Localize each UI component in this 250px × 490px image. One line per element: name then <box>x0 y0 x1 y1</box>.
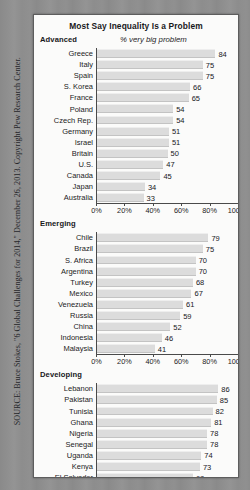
bar-track: 68 <box>96 472 238 478</box>
bar-value-label: 85 <box>217 395 228 404</box>
bar-row-label: Russia <box>34 311 96 320</box>
bar-track: 54 <box>96 103 238 114</box>
bar-value-label: 33 <box>144 193 155 202</box>
bar-row: Poland54 <box>34 103 238 114</box>
bar-value-label: 78 <box>207 440 218 449</box>
bar <box>97 418 211 427</box>
bar-row: China52 <box>34 321 238 332</box>
bar-row: France65 <box>34 92 238 103</box>
bar-value-label: 75 <box>203 60 214 69</box>
bar-value-label: 34 <box>145 182 156 191</box>
bar-value-label: 86 <box>218 384 229 393</box>
bar-row-label: Senegal <box>34 440 96 449</box>
bar-track: 46 <box>96 332 238 343</box>
bar-track: 51 <box>96 126 238 137</box>
bar-value-label: 59 <box>180 311 191 320</box>
bar-row-label: Argentina <box>34 267 96 276</box>
bar-value-label: 46 <box>162 333 173 342</box>
bar-row-label: Brazil <box>34 244 96 253</box>
bar-row: S. Korea66 <box>34 81 238 92</box>
bar-value-label: 66 <box>190 82 201 91</box>
bar-track: 85 <box>96 394 238 405</box>
bar-track: 78 <box>96 428 238 439</box>
x-axis-tick-label: 40% <box>145 206 160 215</box>
bar-row-label: S. Africa <box>34 256 96 265</box>
bar-track: 33 <box>96 192 238 203</box>
bar <box>97 193 144 202</box>
bar-track: 50 <box>96 148 238 159</box>
bar-value-label: 78 <box>207 429 218 438</box>
group-label-emerging: Emerging <box>40 219 76 228</box>
bar <box>97 429 207 438</box>
source-credit-text: SOURCE: Bruce Stokes, "6 Global Challeng… <box>13 33 24 425</box>
bar-row-label: China <box>34 322 96 331</box>
x-axis-emerging: 0%20%40%60%80%100% <box>96 354 238 366</box>
x-axis-line <box>96 354 238 355</box>
chart-title: Most Say Inequality Is a Problem <box>34 21 238 31</box>
bar-track: 70 <box>96 255 238 266</box>
bar-row-label: Venezuela <box>34 300 96 309</box>
bar-row-label: Pakistan <box>34 395 96 404</box>
bar-track: 52 <box>96 321 238 332</box>
x-axis-tick-label: 20% <box>117 206 132 215</box>
bar-track: 75 <box>96 70 238 81</box>
bar-row: Ghana81 <box>34 417 238 428</box>
bar-value-label: 65 <box>189 93 200 102</box>
x-axis-tick-label: 80% <box>202 206 217 215</box>
x-axis-tick-label: 40% <box>145 357 160 366</box>
bar-row: Argentina70 <box>34 266 238 277</box>
bar-track: 41 <box>96 343 238 354</box>
group-label-advanced: Advanced <box>40 35 77 44</box>
bar-row-label: U.S. <box>34 160 96 169</box>
bar-value-label: 74 <box>201 451 212 460</box>
x-axis-tick-label: 0% <box>91 206 102 215</box>
x-axis-tick-label: 100% <box>228 206 239 215</box>
bar-row-label: Australia <box>34 193 96 202</box>
x-axis-tick-label: 0% <box>91 357 102 366</box>
bar-row: Tunisia82 <box>34 406 238 417</box>
bar-row-label: Spain <box>34 71 96 80</box>
bar-value-label: 82 <box>213 407 224 416</box>
bar-rows-advanced: Greece84Italy75Spain75S. Korea66France65… <box>34 48 238 203</box>
x-axis-line <box>96 203 238 204</box>
bar-row-label: Turkey <box>34 278 96 287</box>
bar <box>97 60 203 69</box>
bar-row-label: El Salvador <box>34 473 96 478</box>
bar <box>97 138 169 147</box>
bar-track: 66 <box>96 81 238 92</box>
bar-row-label: Israel <box>34 138 96 147</box>
bar-value-label: 79 <box>208 233 219 242</box>
bar-rows-emerging: Chile79Brazil75S. Africa70Argentina70Tur… <box>34 232 238 354</box>
bar-row: S. Africa70 <box>34 255 238 266</box>
bar-row: Italy75 <box>34 59 238 70</box>
x-axis-tick-label: 60% <box>174 357 189 366</box>
bar-row: Britain50 <box>34 148 238 159</box>
bar-value-label: 70 <box>196 256 207 265</box>
bar <box>97 267 196 276</box>
bar-track: 79 <box>96 232 238 243</box>
advanced-group-header: Advanced % very big problem <box>34 35 238 48</box>
bar-track: 86 <box>96 383 238 394</box>
bar-value-label: 41 <box>155 344 166 353</box>
bar-track: 67 <box>96 288 238 299</box>
bar-row-label: France <box>34 93 96 102</box>
bar <box>97 440 207 449</box>
bar <box>97 93 189 102</box>
bar-row-label: Tunisia <box>34 407 96 416</box>
group-label-developing: Developing <box>40 370 82 379</box>
bar-row: Japan34 <box>34 181 238 192</box>
bar-value-label: 81 <box>211 418 222 427</box>
bar-row-label: Malaysia <box>34 344 96 353</box>
bar <box>97 384 218 393</box>
bar-value-label: 68 <box>193 473 204 478</box>
bar-row: Australia33 <box>34 192 238 203</box>
bar-track: 65 <box>96 92 238 103</box>
x-axis-advanced: 0%20%40%60%80%100% <box>96 203 238 215</box>
bar-value-label: 45 <box>160 171 171 180</box>
bar-track: 82 <box>96 406 238 417</box>
bar-track: 74 <box>96 450 238 461</box>
bar <box>97 149 168 158</box>
bar-row: Turkey68 <box>34 277 238 288</box>
chart-card: Most Say Inequality Is a Problem Advance… <box>33 14 239 478</box>
bar-row: Czech Rep.54 <box>34 115 238 126</box>
